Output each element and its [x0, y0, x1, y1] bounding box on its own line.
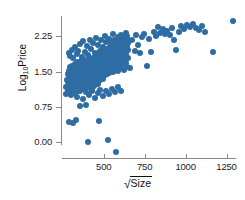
data-point [105, 137, 111, 143]
data-point [169, 25, 175, 31]
data-point [75, 48, 81, 54]
x-axis-tick-label: 500 [84, 161, 124, 172]
x-axis-tick-label: 750 [125, 161, 165, 172]
plot-area [62, 14, 238, 159]
data-point [89, 88, 95, 94]
y-axis-title-base: Log [17, 74, 28, 91]
data-point [125, 55, 131, 61]
y-axis-title: Log10Price [17, 28, 28, 108]
scatter-plot-figure: 0.000.751.502.25 50075010001250 Log10Pri… [0, 0, 245, 200]
data-point [137, 50, 143, 56]
data-point [74, 94, 80, 100]
data-point [173, 47, 179, 53]
x-axis-line [62, 158, 236, 159]
x-axis-tick [145, 154, 146, 159]
y-axis-tick [56, 107, 62, 108]
data-point [123, 30, 129, 36]
data-point [80, 96, 86, 102]
data-point [73, 117, 79, 123]
data-point [125, 47, 131, 53]
data-point [146, 36, 152, 42]
data-point [118, 88, 124, 94]
y-axis-tick-label: 0.00 [10, 136, 52, 147]
data-point [113, 149, 119, 155]
x-axis-tick [227, 154, 228, 159]
x-axis-tick [104, 154, 105, 159]
data-point [144, 63, 150, 69]
radical-sign: √ [124, 177, 131, 191]
y-axis-title-subscript: 10 [22, 67, 29, 75]
data-point [148, 49, 154, 55]
x-axis-tick [186, 154, 187, 159]
data-point [210, 49, 216, 55]
data-point [135, 42, 141, 48]
x-axis-tick-label: 1250 [207, 161, 245, 172]
y-axis-title-tail: Price [17, 44, 28, 67]
data-point [127, 65, 133, 71]
data-point [85, 139, 91, 145]
y-axis-tick [56, 142, 62, 143]
data-point [77, 88, 83, 94]
data-point [77, 103, 83, 109]
x-axis-title-radicand: Size [130, 176, 152, 189]
y-axis-tick [56, 72, 62, 73]
data-point [171, 37, 177, 43]
data-point [96, 118, 102, 124]
data-point [202, 29, 208, 35]
data-point [230, 18, 236, 24]
y-axis-tick [56, 36, 62, 37]
x-axis-tick-label: 1000 [166, 161, 206, 172]
data-point [85, 52, 91, 58]
data-point [83, 102, 89, 108]
x-axis-title: √Size [78, 176, 198, 190]
